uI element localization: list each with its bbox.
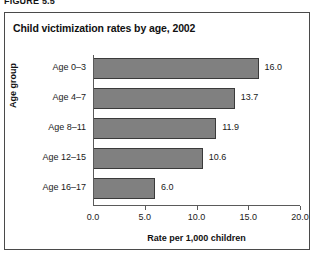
x-axis-tick-label: 20.0 — [291, 212, 309, 222]
figure-number-label: FIGURE 5.5 — [4, 0, 55, 7]
category-label: Age 0–3 — [52, 62, 86, 72]
figure-page: FIGURE 5.5 Child victimization rates by … — [0, 0, 317, 257]
bar-value-label: 10.6 — [209, 152, 227, 162]
bar-row: Age 16–176.0 — [93, 178, 300, 199]
category-label: Age 16–17 — [42, 182, 86, 192]
y-axis-line — [93, 55, 94, 206]
bar — [93, 118, 216, 139]
x-axis-tick-label: 10.0 — [188, 212, 206, 222]
y-axis-title: Age group — [8, 63, 18, 108]
x-axis-tick-label: 5.0 — [138, 212, 151, 222]
bar-row: Age 4–713.7 — [93, 88, 300, 109]
bar-value-label: 16.0 — [265, 62, 283, 72]
bar — [93, 58, 259, 79]
bar — [93, 178, 155, 199]
x-axis-tick-label: 15.0 — [239, 212, 257, 222]
x-axis-tick — [300, 206, 301, 210]
bar-row: Age 8–1111.9 — [93, 118, 300, 139]
x-axis-tick-label: 0.0 — [87, 212, 100, 222]
bar-value-label: 6.0 — [161, 182, 174, 192]
plot-area: Age 0–316.0Age 4–713.7Age 8–1111.9Age 12… — [93, 55, 300, 205]
bar-row: Age 12–1510.6 — [93, 148, 300, 169]
category-label: Age 8–11 — [48, 122, 86, 132]
category-label: Age 12–15 — [42, 152, 86, 162]
bar-value-label: 13.7 — [241, 92, 259, 102]
bar — [93, 148, 203, 169]
category-label: Age 4–7 — [52, 92, 86, 102]
x-axis-tick — [248, 206, 249, 210]
x-axis-title: Rate per 1,000 children — [93, 233, 300, 243]
x-axis-tick — [145, 206, 146, 210]
x-axis-tick — [197, 206, 198, 210]
bar-value-label: 11.9 — [222, 122, 239, 132]
bar — [93, 88, 235, 109]
bar-row: Age 0–316.0 — [93, 58, 300, 79]
chart-title: Child victimization rates by age, 2002 — [13, 22, 195, 34]
